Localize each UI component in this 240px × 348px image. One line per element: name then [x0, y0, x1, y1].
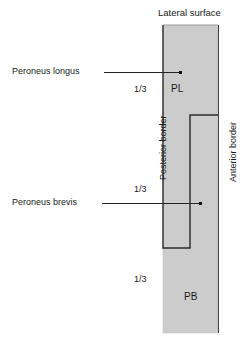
posterior-border-label: Posterior border	[159, 115, 168, 180]
peroneus-longus-leader-dot	[179, 71, 182, 74]
anterior-border-label: Anterior border	[229, 122, 238, 182]
peroneus-longus-leader-line	[104, 72, 180, 73]
third-marker-distal: 1/3	[134, 275, 147, 284]
peroneus-brevis-callout-label: Peroneus brevis	[12, 198, 77, 207]
peroneus-brevis-abbreviation: PB	[184, 292, 197, 302]
third-marker-middle: 1/3	[134, 185, 147, 194]
fibula-lateral-surface-diagram: Lateral surface Posterior border Anterio…	[0, 0, 240, 348]
peroneus-longus-abbreviation: PL	[171, 84, 183, 94]
peroneus-longus-callout-label: Peroneus longus	[12, 67, 80, 76]
peroneus-brevis-leader-dot	[199, 202, 202, 205]
fibula-shaft-shape	[0, 0, 240, 348]
third-marker-proximal: 1/3	[134, 85, 147, 94]
peroneus-brevis-leader-line	[102, 203, 200, 204]
anterior-border-line	[218, 25, 219, 333]
